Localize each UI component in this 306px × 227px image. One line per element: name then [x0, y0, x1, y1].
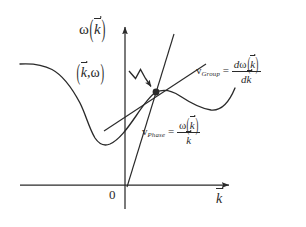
origin-label: 0 [109, 188, 116, 201]
phase-velocity-fraction: ω(k) k [177, 119, 200, 147]
phase-velocity-line [127, 34, 174, 187]
dispersion-figure: ω(k) (k,ω) vGroup = dω(k) dk vPhase = ω(… [0, 0, 306, 227]
close-paren: ) [195, 115, 198, 135]
vector-arrow-accent [216, 188, 223, 189]
group-velocity-fraction: dω(k) dk [232, 58, 261, 86]
close-paren: ) [100, 61, 104, 84]
k-vector: k [186, 134, 191, 146]
open-paren: ( [77, 61, 81, 84]
omega-symbol: ω [179, 119, 186, 131]
omega-symbol: ω [79, 21, 89, 37]
vector-arrow-accent [247, 70, 252, 71]
k-vector: k [247, 73, 252, 85]
vector-arrow-accent [186, 131, 191, 132]
marked-point [153, 89, 160, 96]
vector-arrow-accent [94, 18, 101, 19]
point-coordinate-label: (k,ω) [76, 66, 104, 80]
k-vector: k [94, 22, 101, 37]
callout-arrow [129, 70, 151, 87]
group-velocity-label: vGroup = dω(k) dk [196, 58, 261, 86]
k-vector: k [216, 192, 222, 206]
vector-arrow-accent [81, 62, 88, 63]
vector-arrow-accent [190, 116, 195, 117]
phase-subscript: Phase [148, 131, 166, 138]
equals-sign: = [223, 64, 229, 76]
equals-sign: = [168, 125, 174, 137]
y-axis-label: ω(k) [79, 22, 106, 37]
phase-velocity-label: vPhase = ω(k) k [142, 119, 200, 147]
group-subscript: Group [202, 70, 221, 77]
omega-symbol: ω [239, 58, 246, 70]
x-axis-label: k [216, 192, 222, 206]
omega-symbol: ω [90, 65, 99, 80]
dispersion-plot-canvas [0, 0, 306, 227]
k-vector: k [81, 66, 87, 80]
close-paren: ) [101, 17, 105, 42]
close-paren: ) [255, 54, 258, 74]
open-paren: ( [89, 17, 93, 42]
